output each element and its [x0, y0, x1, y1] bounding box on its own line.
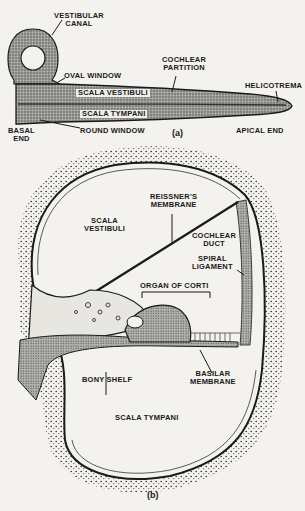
label-basilar-membrane: BASILAR MEMBRANE — [190, 370, 236, 386]
label-reissners-membrane: REISSNER'S MEMBRANE — [150, 193, 197, 209]
label-line: MEMBRANE — [190, 378, 236, 386]
label-line: VESTIBULI — [84, 225, 125, 233]
label-scala-vestibuli-b: SCALA VESTIBULI — [84, 217, 125, 233]
label-line: LIGAMENT — [192, 263, 233, 271]
figure-b-drawing — [0, 0, 305, 511]
label-line: DUCT — [192, 240, 236, 248]
caption-b: (b) — [147, 490, 159, 500]
label-spiral-ligament: SPIRAL LIGAMENT — [192, 255, 233, 271]
label-cochlear-duct: COCHLEAR DUCT — [192, 232, 236, 248]
label-line: MEMBRANE — [150, 201, 197, 209]
label-organ-of-corti: ORGAN OF CORTI — [140, 282, 209, 290]
label-scala-tympani-b: SCALA TYMPANI — [115, 414, 178, 422]
label-bony-shelf: BONY SHELF — [82, 376, 132, 384]
